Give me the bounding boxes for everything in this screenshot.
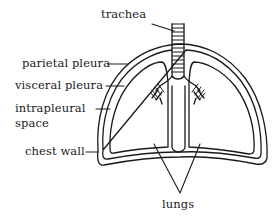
visceral-pleura-label: visceral pleura <box>15 79 103 92</box>
intrapleural-label-line2: space <box>15 117 49 130</box>
trachea-label: trachea <box>101 8 146 21</box>
trachea <box>151 24 205 104</box>
chest-wall-outline <box>98 44 267 165</box>
intrapleural-label-line1: intrapleural <box>15 102 86 115</box>
chest-wall-label: chest wall <box>25 145 85 158</box>
mediastinum <box>172 86 185 152</box>
right-lung-visceral-pleura <box>189 62 254 154</box>
parietal-pleura-label: parietal pleura <box>22 57 110 70</box>
trachea-leader <box>152 24 174 31</box>
lungs-label: lungs <box>162 198 194 211</box>
lung-pleura-diagram: trachea parietal pleura visceral pleura … <box>0 0 274 223</box>
